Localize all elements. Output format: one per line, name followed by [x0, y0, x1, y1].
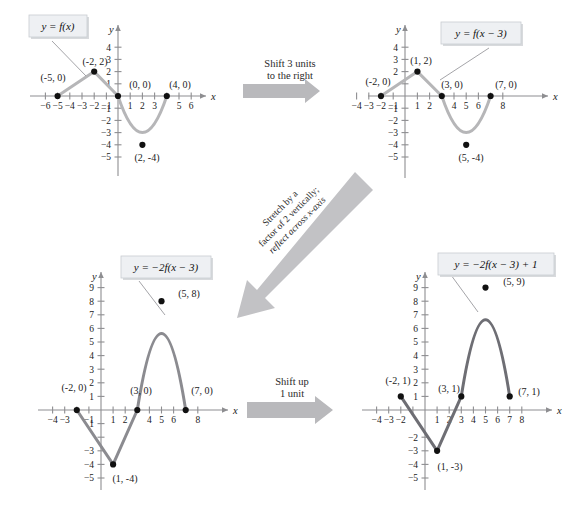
graph-3-parabola [137, 333, 185, 410]
arrow-shift-right-glyph [243, 79, 320, 103]
graph-1-x-arrowhead [200, 93, 206, 99]
svg-text:6: 6 [495, 415, 500, 425]
svg-text:6: 6 [171, 415, 176, 425]
graph-4: x y −4 −3 −2 1 2 3 4 5 6 7 8 [362, 253, 562, 490]
graph-1-x-axis-label: x [210, 91, 216, 102]
graph-2-point [439, 93, 445, 99]
svg-text:2: 2 [123, 415, 128, 425]
svg-text:−4: −4 [65, 101, 75, 111]
svg-text:−3: −3 [364, 101, 374, 111]
graph-1-equation: y = f(x) [40, 20, 74, 33]
arrow-shift-up: Shift up 1 unit [247, 376, 333, 424]
svg-text:2: 2 [427, 101, 432, 111]
graph-1-point [139, 142, 145, 148]
svg-text:1: 1 [111, 415, 116, 425]
arrow-shift-up-line2: 1 unit [280, 388, 304, 399]
graph-3-point-label: (5, 8) [178, 288, 200, 300]
graph-3-point [74, 407, 80, 413]
graph-1-point-label: (2, -4) [135, 152, 160, 164]
graph-3-point-label: (1, -4) [113, 473, 138, 485]
svg-text:−4: −4 [101, 140, 111, 150]
graph-3-x-ticks: −4 −3 −1 1 2 4 5 6 8 [48, 407, 201, 426]
svg-text:6: 6 [413, 324, 418, 334]
svg-text:−5: −5 [101, 152, 111, 162]
graph-1: x y −6 −5 −4 −3 −2 −1 1 2 3 5 6 [29, 15, 216, 176]
graph-2-point-label: (-2, 0) [366, 76, 391, 88]
graph-4-y-axis-label: y [415, 271, 421, 282]
graph-3: x y −4 −3 −1 1 2 4 5 6 8 [38, 256, 238, 490]
graph-4-equation: y = −2f(x − 3) + 1 [454, 258, 538, 271]
graph-2-equation: y = f(x − 3) [454, 27, 507, 40]
svg-text:9: 9 [413, 283, 418, 293]
graph-3-x-arrowhead [222, 407, 228, 413]
svg-text:−4: −4 [84, 460, 94, 470]
svg-text:−1: −1 [388, 104, 398, 114]
svg-text:1: 1 [413, 392, 418, 402]
graph-4-x-ticks: −4 −3 −2 1 2 3 4 5 6 7 8 [372, 407, 525, 426]
graph-1-y-arrowhead [115, 25, 121, 31]
graph-1-point [115, 93, 121, 99]
graph-2-point [488, 93, 494, 99]
svg-text:−2: −2 [408, 433, 418, 443]
svg-text:−5: −5 [84, 473, 94, 483]
svg-text:−1: −1 [101, 104, 111, 114]
svg-text:−3: −3 [84, 446, 94, 456]
svg-text:3: 3 [413, 365, 418, 375]
svg-text:4: 4 [471, 415, 476, 425]
graph-3-equation: y = −2f(x − 3) [133, 261, 199, 274]
svg-text:5: 5 [483, 415, 488, 425]
svg-text:−4: −4 [408, 460, 418, 470]
graph-4-leader-line [451, 275, 478, 312]
svg-text:7: 7 [507, 415, 512, 425]
svg-text:8: 8 [500, 101, 505, 111]
svg-text:4: 4 [147, 415, 152, 425]
svg-text:−4: −4 [352, 101, 362, 111]
arrow-stretch-reflect: Stretch by a factor of 2 vertically; ref… [237, 172, 373, 318]
svg-text:2: 2 [89, 378, 94, 388]
svg-text:5: 5 [159, 415, 164, 425]
svg-text:6: 6 [89, 324, 94, 334]
svg-text:4: 4 [413, 351, 418, 361]
svg-text:8: 8 [89, 297, 94, 307]
svg-text:3: 3 [459, 415, 464, 425]
svg-text:−2: −2 [101, 116, 111, 126]
graph-1-point [55, 93, 61, 99]
graph-4-point [434, 448, 440, 454]
graph-3-point [110, 461, 116, 467]
svg-text:−2: −2 [376, 101, 386, 111]
graph-4-y-arrowhead [422, 272, 428, 278]
graph-4-point-label: (1, -3) [438, 461, 463, 473]
graph-4-parabola [461, 320, 509, 397]
graph-2-y-arrowhead [402, 25, 408, 31]
graph-4-point [507, 393, 513, 399]
svg-text:−3: −3 [101, 128, 111, 138]
graph-1-point-label: (4, 0) [169, 79, 191, 91]
graph-3-point-label: (-2, 0) [62, 382, 87, 394]
svg-text:−3: −3 [77, 101, 87, 111]
svg-text:3: 3 [393, 55, 398, 65]
graph-2-point [414, 69, 420, 75]
graph-2-point [378, 93, 384, 99]
graph-2-point-label: (1, 2) [410, 55, 432, 67]
graph-1-point [164, 93, 170, 99]
graph-3-x-axis-label: x [232, 405, 238, 416]
transformation-figure: x y −6 −5 −4 −3 −2 −1 1 2 3 5 6 [0, 0, 575, 511]
svg-text:8: 8 [195, 415, 200, 425]
graph-2-leader-line [440, 48, 489, 80]
svg-text:−5: −5 [388, 152, 398, 162]
graph-1-point [91, 69, 97, 75]
svg-text:6: 6 [476, 101, 481, 111]
graph-4-point-label: (-2, 1) [386, 375, 411, 387]
svg-text:7: 7 [413, 310, 418, 320]
graph-4-point [458, 393, 464, 399]
svg-text:3: 3 [89, 365, 94, 375]
graph-3-point [158, 298, 164, 304]
svg-text:−5: −5 [53, 101, 63, 111]
graph-2-point-label: (7, 0) [495, 79, 517, 91]
arrow-shift-right: Shift 3 units to the right [243, 58, 320, 103]
graph-2-point-label: (5, -4) [459, 152, 484, 164]
arrow-shift-up-glyph [247, 396, 333, 424]
graph-4-point-label: (7, 1) [518, 386, 540, 398]
graph-1-point-label: (0, 0) [129, 79, 151, 91]
svg-text:−4: −4 [388, 140, 398, 150]
